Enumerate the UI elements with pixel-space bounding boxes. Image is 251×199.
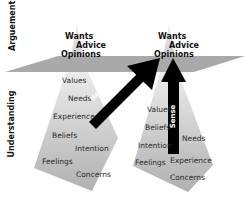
understanding-side-label: Understanding (8, 90, 16, 158)
left-opinions-label: Opinions (61, 51, 101, 59)
left-beliefs-label: Beliefs (52, 132, 77, 140)
right-intention-label: Intention (138, 142, 172, 150)
right-experience-label: Experience (170, 157, 212, 165)
left-wants-label: Wants (65, 33, 93, 41)
argument-plane (5, 56, 245, 72)
left-advice-label: Advice (76, 42, 106, 50)
right-wants-label: Wants (158, 33, 186, 41)
left-intention-label: Intention (75, 145, 109, 153)
argument-side-label: Arguement (9, 1, 17, 51)
right-beliefs-label: Beliefs (145, 124, 170, 132)
left-experience-label: Experience (53, 113, 95, 121)
sense-arrow-label: Sense (170, 102, 177, 132)
right-concerns-label: Concerns (170, 174, 205, 182)
left-concerns-label: Concerns (76, 171, 111, 179)
right-feelings-label: Feelings (135, 159, 166, 167)
left-feelings-label: Feelings (42, 158, 73, 166)
right-needs-label: Needs (182, 135, 206, 143)
left-values-label: Values (62, 77, 87, 85)
right-opinions-label: Opinions (154, 51, 194, 59)
right-advice-label: Advice (169, 42, 199, 50)
diagram-canvas (0, 0, 251, 199)
